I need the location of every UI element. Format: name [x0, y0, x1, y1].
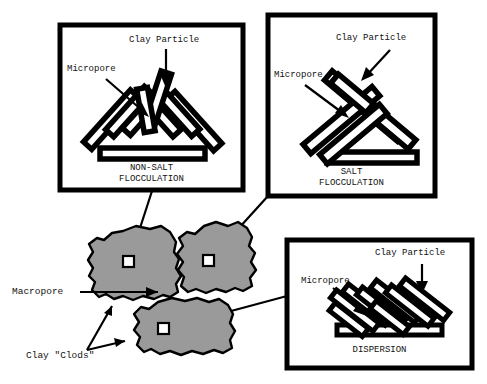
marker-square-salt [203, 255, 214, 266]
diagram-graphics [0, 0, 487, 384]
clay-particle-label-nonsalt: Clay Particle [129, 35, 199, 45]
clay-particle-label-salt: Clay Particle [336, 33, 406, 43]
base-plate-nonsalt [100, 148, 205, 159]
marker-square-dispersion [158, 323, 169, 334]
figure-canvas: Clay Particle Micropore NON-SALT FLOCCUL… [0, 0, 487, 384]
micropore-label-salt: Micropore [274, 70, 323, 80]
micropore-label-nonsalt: Micropore [67, 64, 116, 74]
clay-particle-label-dispersion: Clay Particle [375, 248, 445, 258]
clay-clods-group [88, 222, 256, 355]
micropore-label-dispersion: Micropore [301, 276, 350, 286]
marker-square-nonsalt [123, 256, 134, 267]
panel-caption-salt-line1: SALT [268, 167, 435, 178]
clay-clods-arrow [87, 306, 125, 350]
panel-caption-nonsalt-line2: FLOCCULATION [60, 174, 243, 185]
panel-caption-nonsalt-line1: NON-SALT [60, 163, 243, 174]
clay-clods-label: Clay "Clods" [26, 350, 94, 361]
clod-top-right [177, 222, 256, 293]
panel-caption-dispersion: DISPERSION [287, 345, 472, 356]
panel-caption-salt-line2: FLOCCULATION [268, 178, 435, 189]
clod-bottom [134, 298, 235, 355]
macropore-label: Macropore [12, 286, 63, 297]
